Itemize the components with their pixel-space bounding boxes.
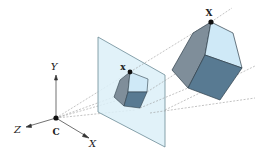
- world-point: [208, 19, 213, 24]
- label-camera-center: C: [52, 127, 59, 137]
- label-z-axis: Z: [13, 124, 22, 135]
- label-image-point: x: [120, 62, 126, 72]
- label-x-axis: X: [88, 138, 97, 149]
- label-y-axis: Y: [51, 61, 59, 72]
- world-cube: [172, 22, 242, 100]
- image-point: [128, 70, 133, 75]
- camera-center-point: [53, 115, 58, 120]
- projection-diagram: Y Z X C x X: [0, 0, 260, 157]
- label-world-point: X: [206, 8, 213, 18]
